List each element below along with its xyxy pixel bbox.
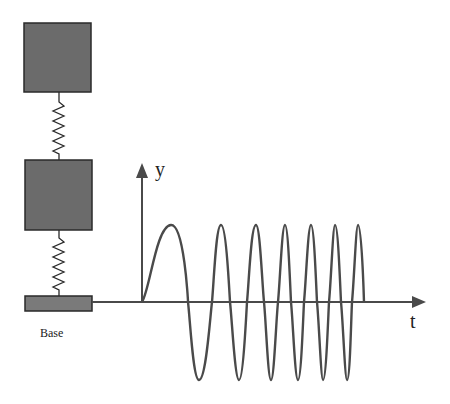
t-axis-arrowhead-icon [412, 296, 426, 308]
upper-spring [53, 92, 64, 160]
two-mass-spring-diagram [0, 0, 450, 404]
upper-mass-block [24, 23, 91, 92]
y-axis-label: y [155, 158, 165, 181]
lower-mass-block [25, 160, 92, 230]
y-axis-arrowhead-icon [136, 163, 148, 178]
base-label: Base [40, 326, 63, 341]
t-axis-label: t [410, 310, 416, 333]
lower-spring [53, 230, 64, 296]
base-plate [25, 296, 92, 311]
